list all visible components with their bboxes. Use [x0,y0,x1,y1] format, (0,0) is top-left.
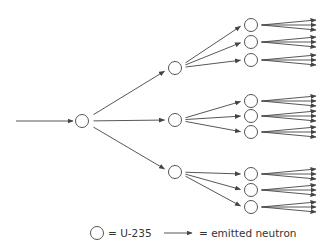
emitted-neutron-arrow [262,132,317,137]
u235-nucleus-gen3 [245,95,258,108]
neutron-arrow-gen1-to-gen2 [94,71,165,114]
neutron-arrow-gen2-to-gen3 [186,102,241,118]
emitted-neutron-arrow [262,42,317,47]
neutron-arrow-gen2-to-gen3 [186,121,241,131]
emitted-neutron-arrow [262,25,317,30]
emitted-neutron-arrow [262,202,317,207]
emitted-neutron-arrow [262,116,317,121]
neutron-arrow-gen2-to-gen3 [186,176,241,206]
emitted-neutron-arrow [262,111,317,116]
emitted-neutron-arrow [262,55,317,60]
neutron-arrow-gen2-to-gen3 [186,172,241,174]
emitted-neutron-arrow [262,169,317,174]
neutron-arrow-gen2-to-gen3 [186,26,241,63]
u235-nucleus-gen2 [169,114,182,127]
emitted-neutron-arrow [262,20,317,25]
emitted-neutron-arrow [262,190,317,195]
legend-u235-icon [91,227,104,240]
chain-reaction-diagram [0,0,330,250]
emitted-neutron-arrow [262,174,317,179]
u235-nucleus-gen3 [245,184,258,197]
neutron-arrow-gen1-to-gen2 [94,120,165,121]
legend-neutron-label: = emitted neutron [199,227,297,239]
u235-nucleus-gen3 [245,19,258,32]
u235-nuclei [76,19,258,214]
emitted-neutron-arrow [262,96,317,101]
emitted-neutron-arrow [262,185,317,190]
emitted-neutron-arrow [262,207,317,212]
emitted-neutron-arrow [262,37,317,42]
emitted-neutron-arrow [262,127,317,132]
neutron-arrow-gen1-to-gen2 [94,127,165,169]
neutron-arrows [16,20,316,212]
emitted-neutron-arrow [262,60,317,65]
u235-nucleus-gen2 [169,166,182,179]
legend-u235-label: = U-235 [108,227,152,239]
u235-nucleus-gen1 [76,115,89,128]
u235-nucleus-gen3 [245,126,258,139]
u235-nucleus-gen2 [169,62,182,75]
emitted-neutron-arrow [262,101,317,106]
u235-nucleus-gen3 [245,168,258,181]
u235-nucleus-gen3 [245,36,258,49]
neutron-arrow-gen2-to-gen3 [186,116,241,119]
u235-nucleus-gen3 [245,54,258,67]
neutron-arrow-gen2-to-gen3 [186,174,241,189]
u235-nucleus-gen3 [245,110,258,123]
u235-nucleus-gen3 [245,201,258,214]
